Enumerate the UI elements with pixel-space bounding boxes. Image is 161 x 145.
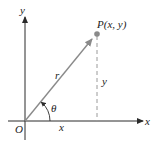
point-label: P(x, y) [96,18,127,31]
angle-theta-arc [42,102,51,121]
radius-label: r [55,69,60,81]
point-p [94,31,100,37]
polar-coordinate-diagram: y P(x, y) r y θ O x x [0,0,161,145]
x-axis-label: x [144,115,150,127]
x-leg-label: x [58,121,64,133]
theta-label: θ [51,102,57,114]
y-leg-label: y [101,75,107,87]
y-axis-label: y [19,4,25,16]
origin-label: O [15,123,23,135]
